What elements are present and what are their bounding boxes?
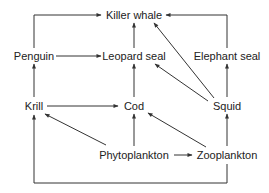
node-leopard-seal: Leopard seal <box>102 50 166 62</box>
food-web-diagram: Killer whale Penguin Leopard seal Elepha… <box>0 0 269 193</box>
edge-phytoplankton-to-krill <box>45 114 106 145</box>
node-phytoplankton: Phytoplankton <box>99 149 169 161</box>
edge-elephant-seal-to-killer-whale <box>166 15 227 48</box>
node-killer-whale: Killer whale <box>106 9 162 21</box>
node-elephant-seal: Elephant seal <box>194 50 261 62</box>
node-zooplankton: Zooplankton <box>197 149 258 161</box>
nodes: Killer whale Penguin Leopard seal Elepha… <box>14 9 261 161</box>
edge-zooplankton-to-cod <box>148 113 206 147</box>
node-krill: Krill <box>25 100 43 112</box>
edge-penguin-to-killer-whale <box>34 15 101 48</box>
edge-squid-to-leopard-seal <box>155 64 208 101</box>
node-squid: Squid <box>213 100 241 112</box>
node-cod: Cod <box>124 100 144 112</box>
node-penguin: Penguin <box>14 50 54 62</box>
